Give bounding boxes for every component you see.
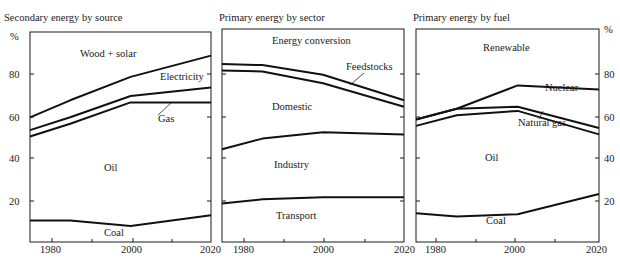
panel-3-series	[416, 85, 599, 216]
label-transport: Transport	[276, 210, 317, 221]
panel-2-series	[222, 64, 404, 204]
panel-3-frame	[416, 29, 599, 242]
energy-charts-figure: % 80 60 40 20 1980 2000 2020 Wood + sola…	[0, 0, 620, 265]
panel-1-x-tick-1980: 1980	[40, 244, 61, 255]
label-nuclear: Nuclear	[545, 82, 579, 93]
label-oil-3: Oil	[485, 152, 499, 163]
label-feedstocks: Feedstocks	[346, 61, 393, 72]
panel-3-x-tick-2000: 2000	[504, 244, 525, 255]
panel-1-x-tick-2000: 2000	[121, 244, 142, 255]
boundary-line-1	[222, 197, 404, 203]
panel-1-x-ticks	[52, 238, 172, 242]
panel-3-y-tick-20: 20	[604, 196, 615, 207]
panel-2-x-tick-1980: 1980	[233, 244, 254, 255]
boundary-line-1	[30, 215, 211, 226]
label-oil-1: Oil	[104, 162, 118, 173]
panel-1-y-unit: %	[10, 31, 19, 42]
panel-2-x-ticks	[244, 238, 365, 242]
label-electricity: Electricity	[160, 71, 204, 82]
panel-2-x-tick-2020: 2020	[394, 244, 415, 255]
label-renewable: Renewable	[483, 42, 530, 53]
panel-1-y-tick-40: 40	[9, 153, 20, 164]
label-gas: Gas	[158, 113, 174, 124]
boundary-line-2	[222, 132, 404, 149]
panel-1-y-tick-60: 60	[9, 112, 20, 123]
panel-3-y-tick-60: 60	[604, 112, 615, 123]
boundary-line-3	[30, 88, 211, 131]
panel-3-x-tick-1980: 1980	[425, 244, 446, 255]
panel-secondary-energy-by-source: % 80 60 40 20 1980 2000 2020 Wood + sola…	[9, 31, 221, 255]
label-coal-1: Coal	[104, 227, 124, 238]
panel-1-x-tick-2020: 2020	[200, 244, 221, 255]
label-energy-conversion: Energy conversion	[272, 35, 352, 46]
panel-1-y-ticks	[30, 74, 211, 201]
panel-2-y-ticks	[222, 74, 404, 201]
panel-primary-energy-by-fuel: % 80 60 40 20 1980 2000 2020 Renewable N…	[416, 24, 615, 255]
boundary-line-2	[416, 111, 599, 134]
panel-3-y-unit: %	[604, 24, 613, 35]
label-natural-gas: Natural gas	[518, 117, 566, 128]
panel-3-x-tick-2020: 2020	[586, 244, 607, 255]
panel-1-y-tick-20: 20	[9, 196, 20, 207]
boundary-line-3	[222, 71, 404, 107]
panel-2-x-tick-2000: 2000	[313, 244, 334, 255]
panel-3-y-tick-40: 40	[604, 153, 615, 164]
panel-3-y-ticks	[416, 74, 599, 201]
boundary-line-4	[30, 56, 211, 118]
boundary-line-2	[30, 102, 211, 136]
boundary-line-3	[416, 107, 599, 128]
panel-primary-energy-by-sector: 1980 2000 2020 Energy conversion Feedsto…	[222, 29, 415, 255]
feedstocks-leader-line	[350, 73, 364, 85]
label-wood-solar: Wood + solar	[80, 48, 137, 59]
panel-1-y-tick-80: 80	[9, 69, 20, 80]
boundary-line-1	[416, 194, 599, 216]
label-industry: Industry	[274, 159, 310, 170]
label-coal-3: Coal	[486, 215, 506, 226]
panel-3-x-ticks	[436, 238, 555, 242]
label-domestic: Domestic	[272, 101, 313, 112]
panel-3-y-tick-80: 80	[604, 69, 615, 80]
